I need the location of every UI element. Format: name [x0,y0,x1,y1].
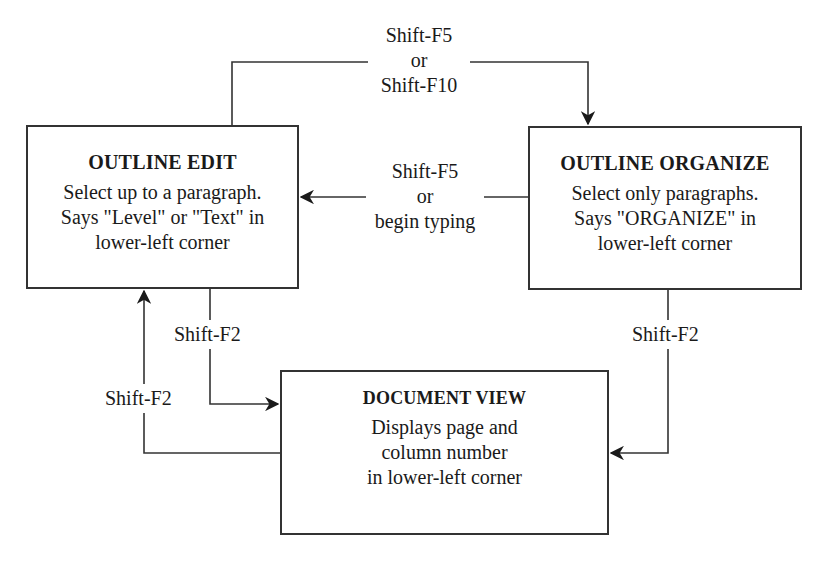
edge-label-edit-to-organize: Shift-F5 or Shift-F10 [368,23,470,98]
node-text: column number [282,440,607,465]
node-text: lower-left corner [530,231,800,256]
label-line: Shift-F2 [632,322,699,347]
node-text: Select up to a paragraph. [28,180,297,205]
edge-label-organize-to-document: Shift-F2 [630,320,701,349]
label-line: or [374,48,464,73]
node-title: DOCUMENT VIEW [282,388,607,409]
node-document-view: DOCUMENT VIEW Displays page and column n… [280,370,609,535]
node-outline-edit: OUTLINE EDIT Select up to a paragraph. S… [26,125,299,289]
edge-label-document-to-edit: Shift-F2 [103,384,174,413]
node-text: in lower-left corner [282,465,607,490]
label-line: Shift-F2 [105,386,172,411]
label-line: Shift-F10 [374,73,464,98]
edge-organize-to-document [611,290,668,453]
label-line: Shift-F2 [174,322,241,347]
node-text: Says "Level" or "Text" in [28,205,297,230]
label-line: Shift-F5 [370,159,480,184]
node-text: lower-left corner [28,230,297,255]
label-line: or [370,184,480,209]
node-text: Displays page and [282,415,607,440]
label-line: Shift-F5 [374,23,464,48]
node-text: Select only paragraphs. [530,181,800,206]
node-text: Says "ORGANIZE" in [530,206,800,231]
node-title: OUTLINE EDIT [28,151,297,174]
node-title: OUTLINE ORGANIZE [530,152,800,175]
node-outline-organize: OUTLINE ORGANIZE Select only paragraphs.… [528,126,802,290]
edge-label-organize-to-edit: Shift-F5 or begin typing [366,159,484,234]
edge-label-edit-to-document: Shift-F2 [172,320,243,349]
edge-document-to-edit [144,291,280,453]
label-line: begin typing [370,209,480,234]
